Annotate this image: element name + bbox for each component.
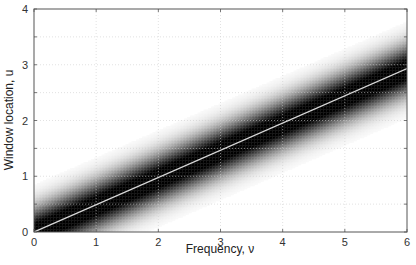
- x-tick-label: 4: [280, 236, 286, 248]
- x-tick-label: 5: [342, 236, 348, 248]
- y-axis-label: Window location, u: [2, 70, 16, 171]
- x-tick-label: 2: [155, 236, 161, 248]
- x-tick-label: 0: [31, 236, 37, 248]
- y-tick-label: 0: [22, 226, 28, 238]
- y-tick-label: 4: [22, 3, 28, 15]
- y-tick-label: 1: [22, 170, 28, 182]
- y-tick-label: 3: [22, 59, 28, 71]
- x-tick-label: 6: [404, 236, 410, 248]
- y-tick-label: 2: [22, 115, 28, 127]
- x-tick-label: 1: [93, 236, 99, 248]
- x-axis-label: Frequency, ν: [186, 242, 254, 256]
- chart-figure: 0123456 01234 Frequency, ν Window locati…: [0, 0, 416, 265]
